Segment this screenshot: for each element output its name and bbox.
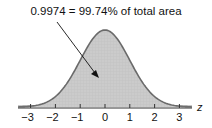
x-tick-label: −1: [71, 111, 84, 123]
x-tick-label: 1: [127, 111, 133, 123]
axis-variable-label: z: [196, 101, 203, 113]
x-tick-label: 2: [152, 111, 158, 123]
annotation-text: 0.9974 = 99.74% of total area: [30, 5, 182, 17]
x-tick-label: −2: [46, 111, 59, 123]
x-tick-label: 3: [176, 111, 182, 123]
normal-distribution-diagram: −3−2−10123 z 0.9974 = 99.74% of total ar…: [0, 0, 212, 128]
x-axis-tick-labels: −3−2−10123: [21, 111, 182, 123]
x-tick-label: −3: [21, 111, 34, 123]
x-tick-label: 0: [102, 111, 108, 123]
shaded-area: [31, 30, 180, 107]
diagram-canvas: −3−2−10123 z 0.9974 = 99.74% of total ar…: [0, 0, 212, 128]
